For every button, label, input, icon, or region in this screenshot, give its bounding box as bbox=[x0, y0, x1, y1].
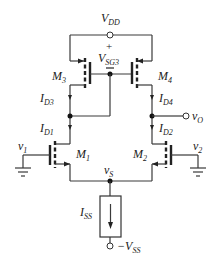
vss-label: −VSS bbox=[117, 239, 140, 255]
vsg-plus-sign: + bbox=[106, 40, 112, 52]
circuit-diagram: VDD + VSG3 M3 M4 ID3 ID1 ID4 vO ID2 bbox=[0, 0, 220, 266]
vss-terminal bbox=[107, 243, 113, 249]
vdd-label: VDD bbox=[101, 11, 120, 27]
ground-icon-left bbox=[15, 155, 31, 176]
vo-label: vO bbox=[192, 109, 203, 125]
m2-source-arrow-icon bbox=[152, 162, 158, 167]
v1-label: v1 bbox=[18, 139, 27, 155]
id2-label: ID2 bbox=[158, 121, 173, 137]
output-terminal bbox=[183, 113, 189, 119]
transistor-m2 bbox=[152, 141, 198, 181]
vs-label: vS bbox=[104, 163, 113, 179]
ground-icon-right bbox=[190, 155, 206, 176]
id3-arrow-icon bbox=[68, 95, 72, 100]
m4-label: M4 bbox=[157, 69, 172, 85]
id4-label: ID4 bbox=[158, 91, 173, 107]
m2-label: M2 bbox=[132, 147, 147, 163]
transistor-m1 bbox=[23, 141, 70, 181]
v2-label: v2 bbox=[193, 139, 202, 155]
m3-label: M3 bbox=[51, 69, 66, 85]
iss-label: ISS bbox=[79, 205, 92, 221]
transistor-m4 bbox=[132, 35, 152, 88]
id2-arrow-icon bbox=[150, 125, 154, 130]
id1-arrow-icon bbox=[68, 125, 72, 130]
id3-label: ID3 bbox=[39, 91, 54, 107]
vsg3-label: VSG3 bbox=[98, 51, 119, 67]
m1-source-arrow-icon bbox=[64, 162, 70, 167]
current-source-iss bbox=[100, 196, 121, 237]
vdd-terminal bbox=[70, 32, 152, 38]
id1-label: ID1 bbox=[39, 121, 54, 137]
left-drain-node bbox=[68, 114, 73, 119]
m1-label: M1 bbox=[75, 147, 90, 163]
id4-arrow-icon bbox=[150, 95, 154, 100]
m3-source-arrow-icon bbox=[78, 59, 84, 64]
